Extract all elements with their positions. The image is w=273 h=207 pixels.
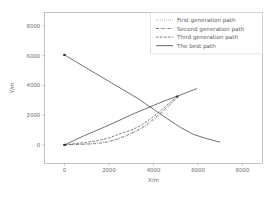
y-tick-label: 4000 [27,82,41,88]
line-chart: 02000400060008000 02000400060008000 X/m … [0,0,273,207]
upper-right-node [176,95,179,97]
y-axis-label: Y/m [9,83,15,95]
x-axis-ticks: 02000400060008000 [63,164,250,173]
origin-node [63,144,66,146]
legend-label: Third generation path [176,34,238,41]
series-path-0 [65,98,177,145]
y-tick-label: 8000 [27,23,41,29]
x-tick-label: 8000 [236,167,250,173]
x-tick-label: 6000 [191,167,205,173]
y-tick-label: 6000 [27,53,41,59]
legend-label: First generation path [177,17,236,24]
series-path-2 [65,97,178,145]
legend-label: The best path [176,43,216,50]
series-path-3 [65,55,221,142]
x-axis-label: X/m [148,177,159,183]
chart-figure: 02000400060008000 02000400060008000 X/m … [0,0,273,207]
data-series-group [65,55,221,145]
depot-node [63,54,66,56]
series-path-1 [65,97,178,144]
legend-label: Second generation path [177,26,245,33]
x-tick-label: 4000 [147,167,161,173]
y-tick-label: 2000 [27,112,41,118]
y-tick-label: 0 [37,142,41,148]
chart-legend: First generation pathSecond generation p… [151,13,263,54]
node-markers [63,54,179,146]
x-tick-label: 2000 [102,167,116,173]
y-axis-ticks: 02000400060008000 [27,23,45,148]
x-tick-label: 0 [63,167,67,173]
